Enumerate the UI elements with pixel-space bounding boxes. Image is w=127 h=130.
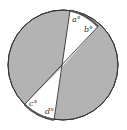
label-a: a° (72, 15, 81, 24)
label-b: b° (84, 25, 93, 34)
circle-diagram: a° b° c° d° (0, 0, 127, 130)
label-c: c° (29, 99, 37, 108)
label-d: d° (45, 107, 54, 116)
